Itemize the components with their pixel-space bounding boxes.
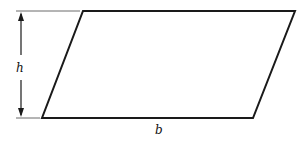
diagram-svg (0, 0, 307, 146)
base-label: b (155, 124, 163, 136)
arrow-up-icon (18, 12, 24, 21)
arrow-down-icon (18, 108, 24, 117)
parallelogram-diagram: h b (0, 0, 307, 146)
height-label: h (16, 62, 24, 74)
parallelogram-shape (42, 11, 295, 118)
